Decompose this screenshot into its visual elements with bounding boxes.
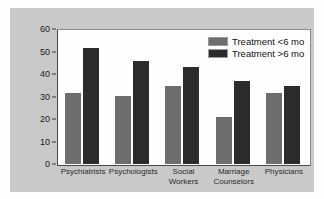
bar — [216, 117, 232, 164]
y-axis-tick-mark — [52, 29, 56, 30]
bar — [266, 93, 282, 164]
y-axis-tick-label: 20 — [40, 115, 50, 124]
y-axis-tick-label: 10 — [40, 137, 50, 146]
bar — [234, 81, 250, 164]
y-axis: 0102030405060 — [20, 29, 56, 165]
x-axis-tick-label: Physicians — [251, 167, 317, 177]
y-axis-tick-mark — [52, 141, 56, 142]
y-axis-tick-mark — [52, 119, 56, 120]
legend-swatch-icon — [208, 37, 228, 46]
y-axis-tick-mark — [52, 96, 56, 97]
legend-item: Treatment <6 mo — [208, 35, 304, 47]
bar-group — [158, 30, 208, 164]
y-axis-tick-label: 40 — [40, 70, 50, 79]
y-axis-tick-label: 30 — [40, 92, 50, 101]
bar — [165, 86, 181, 164]
x-axis: PsychiatristsPsychologistsSocial Workers… — [58, 167, 309, 197]
legend-item: Treatment >6 mo — [208, 47, 304, 59]
legend-item-label: Treatment >6 mo — [232, 48, 304, 59]
y-axis-tick-label: 60 — [40, 25, 50, 34]
bar — [83, 48, 99, 164]
chart-panel: 0102030405060 PsychiatristsPsychologists… — [10, 8, 314, 192]
bar — [133, 61, 149, 164]
bar — [183, 67, 199, 164]
bar — [65, 93, 81, 164]
chart-figure: 0102030405060 PsychiatristsPsychologists… — [0, 0, 324, 199]
bar — [115, 96, 131, 164]
bar — [284, 86, 300, 164]
legend-item-label: Treatment <6 mo — [232, 36, 304, 47]
bar-group — [108, 30, 158, 164]
y-axis-tick-mark — [52, 51, 56, 52]
y-axis-tick-mark — [52, 74, 56, 75]
chart-legend: Treatment <6 mo Treatment >6 mo — [206, 34, 306, 60]
legend-swatch-icon — [208, 49, 228, 58]
y-axis-tick-label: 50 — [40, 47, 50, 56]
y-axis-tick-mark — [52, 164, 56, 165]
bar-group — [58, 30, 108, 164]
